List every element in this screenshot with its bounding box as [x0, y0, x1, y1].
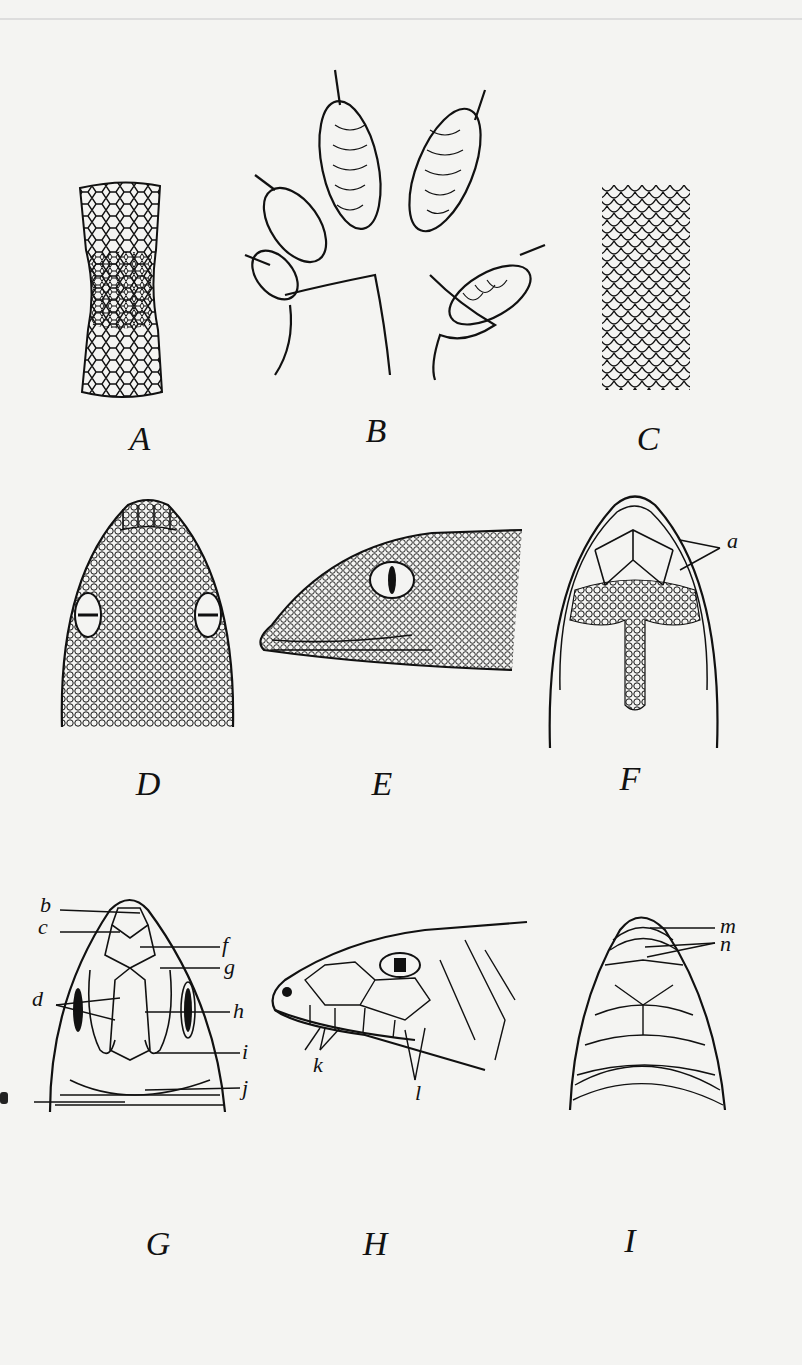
caption-d: D — [118, 765, 178, 803]
figure-c-imbricate-scales — [600, 185, 692, 390]
label-g: g — [224, 956, 235, 978]
caption-f: F — [600, 760, 660, 798]
figure-e-head-lateral-granular — [252, 525, 527, 675]
label-c: c — [38, 916, 48, 938]
label-i: i — [242, 1041, 248, 1063]
caption-e: E — [352, 765, 412, 803]
label-f: f — [222, 934, 228, 956]
caption-g: G — [128, 1225, 188, 1263]
caption-a: A — [110, 420, 170, 458]
figure-d-head-dorsal-granular — [58, 495, 238, 730]
figure-i-head-ventral-plates: m n — [565, 905, 795, 1115]
label-l: l — [415, 1082, 421, 1104]
caption-h: H — [345, 1225, 405, 1263]
label-d: d — [32, 988, 43, 1010]
figure-f-drawing — [545, 490, 795, 755]
figure-g-head-dorsal-plates: b c d f g h i j — [30, 880, 260, 1115]
caption-c: C — [618, 420, 678, 458]
figure-b-foot — [235, 65, 555, 385]
scan-edge-line — [0, 18, 802, 20]
caption-b: B — [346, 412, 406, 450]
label-b: b — [40, 894, 51, 916]
label-h: h — [233, 1000, 244, 1022]
figure-i-drawing — [565, 905, 795, 1115]
label-a: a — [727, 530, 738, 552]
figure-e-drawing — [252, 525, 527, 675]
figure-b-drawing — [235, 65, 555, 385]
illustration-plate: A B — [0, 0, 802, 1365]
label-n: n — [720, 933, 731, 955]
figure-h-drawing — [265, 920, 530, 1160]
figure-g-drawing — [30, 880, 260, 1115]
figure-f-head-ventral: a — [545, 490, 795, 755]
figure-c-drawing — [600, 185, 692, 390]
figure-a-scale-patch — [78, 180, 168, 400]
caption-i: I — [600, 1222, 660, 1260]
scan-edge-mark — [0, 1092, 8, 1104]
figure-d-drawing — [58, 495, 238, 730]
figure-a-drawing — [78, 180, 168, 400]
label-j: j — [242, 1077, 248, 1099]
label-k: k — [313, 1054, 323, 1076]
figure-h-head-lateral-plates: k l — [265, 920, 530, 1160]
